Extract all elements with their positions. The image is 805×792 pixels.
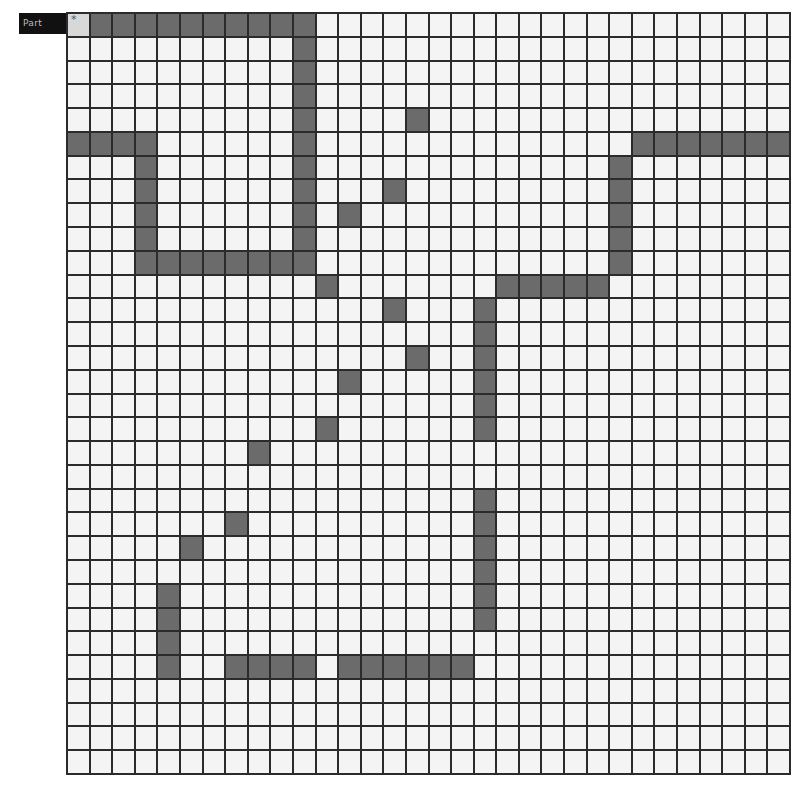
grid-cell[interactable] (91, 85, 112, 107)
grid-cell[interactable] (610, 14, 631, 36)
grid-cell[interactable] (407, 418, 428, 440)
grid-cell[interactable] (723, 442, 744, 464)
grid-cell[interactable] (317, 38, 338, 60)
grid-cell[interactable] (746, 466, 767, 488)
grid-cell[interactable] (317, 323, 338, 345)
grid-cell[interactable] (452, 347, 473, 369)
grid-cell[interactable] (226, 133, 247, 155)
grid-cell[interactable] (407, 561, 428, 583)
grid-cell[interactable] (452, 418, 473, 440)
grid-cell[interactable] (407, 537, 428, 559)
grid-cell[interactable] (542, 680, 563, 702)
grid-cell[interactable] (91, 442, 112, 464)
grid-cell[interactable] (362, 418, 383, 440)
grid-cell[interactable] (339, 323, 360, 345)
grid-cell[interactable] (317, 704, 338, 726)
grid-cell-filled[interactable] (407, 656, 428, 678)
grid-cell[interactable] (226, 180, 247, 202)
grid-cell[interactable] (271, 751, 292, 773)
grid-cell[interactable] (565, 299, 586, 321)
grid-cell[interactable] (362, 632, 383, 654)
grid-cell[interactable] (158, 490, 179, 512)
grid-cell[interactable] (136, 299, 157, 321)
grid-cell[interactable] (339, 252, 360, 274)
grid-cell[interactable] (113, 252, 134, 274)
grid-cell[interactable] (204, 323, 225, 345)
grid-cell[interactable] (588, 38, 609, 60)
grid-cell[interactable] (565, 561, 586, 583)
grid-cell-filled[interactable] (136, 252, 157, 274)
grid-cell[interactable] (497, 252, 518, 274)
grid-cell[interactable] (91, 418, 112, 440)
grid-cell[interactable] (565, 109, 586, 131)
grid-cell-filled[interactable] (294, 38, 315, 60)
grid-cell[interactable] (746, 85, 767, 107)
grid-cell[interactable] (565, 62, 586, 84)
grid-cell[interactable] (339, 14, 360, 36)
grid-cell[interactable] (362, 609, 383, 631)
grid-cell[interactable] (362, 133, 383, 155)
grid-cell[interactable] (226, 727, 247, 749)
grid-cell[interactable] (655, 38, 676, 60)
grid-cell[interactable] (204, 228, 225, 250)
grid-cell[interactable] (723, 537, 744, 559)
grid-cell[interactable] (542, 204, 563, 226)
grid-cell[interactable] (362, 38, 383, 60)
grid-cell[interactable] (655, 371, 676, 393)
grid-cell[interactable] (271, 299, 292, 321)
grid-cell[interactable] (542, 585, 563, 607)
grid-cell[interactable] (610, 537, 631, 559)
grid-cell[interactable] (384, 537, 405, 559)
grid-cell[interactable] (271, 632, 292, 654)
grid-cell[interactable] (678, 228, 699, 250)
grid-cell[interactable] (271, 680, 292, 702)
grid-cell[interactable] (588, 85, 609, 107)
grid-cell[interactable] (362, 180, 383, 202)
grid-cell[interactable] (475, 109, 496, 131)
grid-cell[interactable] (181, 704, 202, 726)
grid-cell[interactable] (249, 585, 270, 607)
grid-cell[interactable] (384, 371, 405, 393)
grid-cell[interactable] (339, 751, 360, 773)
grid-cell[interactable] (339, 632, 360, 654)
grid-cell[interactable] (497, 466, 518, 488)
grid-cell[interactable] (452, 751, 473, 773)
grid-cell-filled[interactable] (723, 133, 744, 155)
grid-cell-filled[interactable] (294, 252, 315, 274)
grid-cell[interactable] (204, 751, 225, 773)
grid-cell[interactable] (475, 704, 496, 726)
grid-cell[interactable] (271, 228, 292, 250)
grid-cell[interactable] (678, 418, 699, 440)
grid-cell[interactable] (68, 680, 89, 702)
grid-cell[interactable] (588, 371, 609, 393)
grid-cell-filled[interactable] (294, 656, 315, 678)
grid-cell[interactable] (746, 204, 767, 226)
grid-cell[interactable] (655, 704, 676, 726)
grid-cell[interactable] (520, 751, 541, 773)
grid-cell[interactable] (362, 585, 383, 607)
grid-cell[interactable] (249, 85, 270, 107)
grid-cell[interactable] (588, 323, 609, 345)
grid-cell[interactable] (158, 537, 179, 559)
grid-cell[interactable] (430, 323, 451, 345)
grid-cell[interactable] (746, 62, 767, 84)
grid-cell[interactable] (746, 347, 767, 369)
grid-cell[interactable] (181, 347, 202, 369)
grid-cell[interactable] (136, 109, 157, 131)
grid-cell[interactable] (181, 299, 202, 321)
grid-cell[interactable] (384, 133, 405, 155)
grid-cell[interactable] (204, 704, 225, 726)
grid-cell[interactable] (723, 656, 744, 678)
grid-cell[interactable] (271, 704, 292, 726)
grid-cell[interactable] (497, 704, 518, 726)
grid-cell[interactable] (497, 109, 518, 131)
grid-cell[interactable] (475, 276, 496, 298)
grid-cell-filled[interactable] (655, 133, 676, 155)
grid-cell[interactable] (271, 490, 292, 512)
grid-cell[interactable] (249, 228, 270, 250)
grid-cell-filled[interactable] (294, 180, 315, 202)
grid-cell[interactable] (701, 109, 722, 131)
grid-cell[interactable] (633, 38, 654, 60)
grid-cell[interactable] (226, 38, 247, 60)
grid-cell[interactable] (158, 371, 179, 393)
